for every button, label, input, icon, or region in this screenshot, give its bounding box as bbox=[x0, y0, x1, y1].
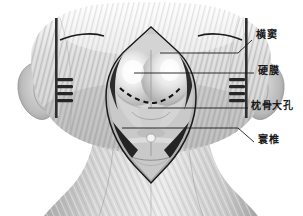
label-dura-mater: 硬膜 bbox=[258, 66, 279, 76]
label-transverse-sinus: 横窦 bbox=[256, 30, 277, 40]
label-atlas: 寰椎 bbox=[258, 135, 279, 145]
label-foramen-magnum: 枕骨大孔 bbox=[251, 101, 293, 111]
medical-illustration-figure: 横窦 硬膜 枕骨大孔 寰椎 bbox=[0, 0, 303, 216]
